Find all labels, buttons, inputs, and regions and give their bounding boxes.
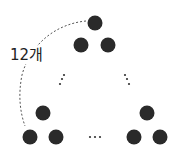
ellipsis-marks <box>59 74 130 138</box>
ellipsis-dot-left_diagonal <box>63 74 65 76</box>
circle-8 <box>127 130 142 145</box>
ellipsis-dot-bottom_horizontal <box>99 136 101 138</box>
ellipsis-dot-right_diagonal <box>126 78 128 80</box>
circles-group <box>23 16 168 145</box>
diagram-canvas <box>0 0 178 157</box>
circle-7 <box>140 106 155 121</box>
circle-6 <box>49 130 64 145</box>
circle-9 <box>153 130 168 145</box>
ellipsis-dot-left_diagonal <box>61 78 63 80</box>
circle-5 <box>23 130 38 145</box>
ellipsis-dot-left_diagonal <box>59 83 61 85</box>
ellipsis-dot-bottom_horizontal <box>89 136 91 138</box>
ellipsis-dot-right_diagonal <box>128 83 130 85</box>
ellipsis-dot-bottom_horizontal <box>94 136 96 138</box>
circle-4 <box>36 106 51 121</box>
circle-3 <box>101 38 116 53</box>
triangle-diagram: 12개 <box>0 0 178 157</box>
circle-2 <box>74 38 89 53</box>
side-count-dashed-arc <box>20 21 86 126</box>
circle-1 <box>88 16 103 31</box>
side-count-label: 12개 <box>9 46 44 64</box>
ellipsis-dot-right_diagonal <box>124 74 126 76</box>
